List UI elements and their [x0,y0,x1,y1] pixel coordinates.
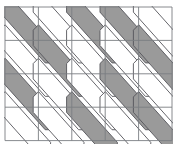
pattern-canvas: Diagonal band tiling pattern A 5 by 4 gr… [0,0,178,151]
diagonal-band-tiling-figure: Diagonal band tiling pattern A 5 by 4 gr… [0,0,178,151]
